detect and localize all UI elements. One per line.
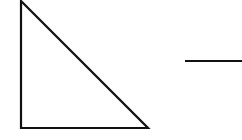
diagram-canvas [0,0,242,140]
right-triangle-shape [21,1,148,128]
